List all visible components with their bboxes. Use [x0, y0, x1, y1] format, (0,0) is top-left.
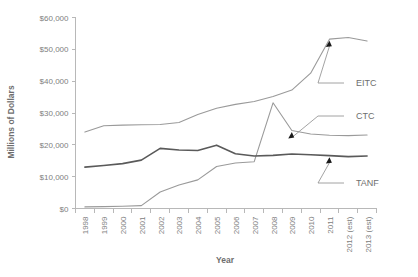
x-tick-label: 2007 — [251, 216, 260, 234]
x-tick-label: 2009 — [288, 216, 297, 234]
x-tick-label: 2001 — [138, 216, 147, 234]
x-tick-label: 1998 — [81, 216, 90, 234]
x-axis-title: Year — [216, 255, 235, 265]
x-tick-label: 2011 — [326, 216, 335, 234]
x-tick-label: 2006 — [232, 216, 241, 234]
x-tick-label: 2012 (est) — [345, 216, 354, 252]
line-chart: $0$10,000$20,000$30,000$40,000$50,000$60… — [0, 0, 418, 277]
x-tick-label: 2005 — [213, 216, 222, 234]
chart-container: $0$10,000$20,000$30,000$40,000$50,000$60… — [0, 0, 418, 277]
x-tick-label: 2010 — [307, 216, 316, 234]
chart-background — [0, 0, 418, 277]
y-tick-label: $10,000 — [40, 173, 69, 182]
x-tick-label: 1999 — [100, 216, 109, 234]
y-tick-label: $20,000 — [40, 141, 69, 150]
x-tick-label: 2000 — [119, 216, 128, 234]
x-tick-label: 2002 — [157, 216, 166, 234]
x-tick-label: 2008 — [270, 216, 279, 234]
series-label-eitc: EITC — [356, 78, 377, 88]
y-tick-label: $0 — [60, 205, 69, 214]
x-tick-label: 2003 — [175, 216, 184, 234]
y-tick-label: $60,000 — [40, 14, 69, 23]
x-tick-label: 2004 — [194, 216, 203, 234]
y-axis-title: Millions of Dollars — [6, 85, 16, 158]
series-label-ctc: CTC — [356, 111, 375, 121]
y-tick-label: $50,000 — [40, 45, 69, 54]
y-tick-label: $40,000 — [40, 77, 69, 86]
y-tick-label: $30,000 — [40, 109, 69, 118]
series-label-tanf: TANF — [356, 178, 379, 188]
x-tick-label: 2013 (est) — [364, 216, 373, 252]
